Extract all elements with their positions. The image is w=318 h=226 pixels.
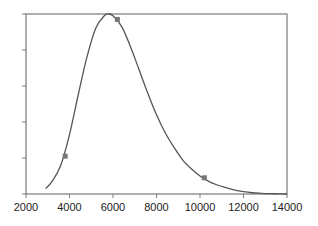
square-marker bbox=[115, 17, 120, 22]
data-markers bbox=[63, 17, 207, 180]
chart: 2000400060008000100001200014000 bbox=[0, 0, 318, 226]
data-series bbox=[46, 14, 287, 194]
x-tick-label: 6000 bbox=[101, 201, 125, 213]
x-tick-label: 2000 bbox=[14, 201, 38, 213]
x-axis-ticks bbox=[26, 194, 287, 198]
series-line bbox=[46, 14, 287, 194]
square-marker bbox=[202, 175, 207, 180]
x-tick-label: 10000 bbox=[185, 201, 216, 213]
x-tick-label: 14000 bbox=[272, 201, 303, 213]
square-marker bbox=[63, 154, 68, 159]
x-tick-label: 4000 bbox=[57, 201, 81, 213]
x-axis-labels: 2000400060008000100001200014000 bbox=[14, 201, 303, 213]
x-tick-label: 8000 bbox=[144, 201, 168, 213]
plot-frame bbox=[26, 14, 287, 194]
x-tick-label: 12000 bbox=[228, 201, 259, 213]
plot-border bbox=[26, 14, 287, 194]
